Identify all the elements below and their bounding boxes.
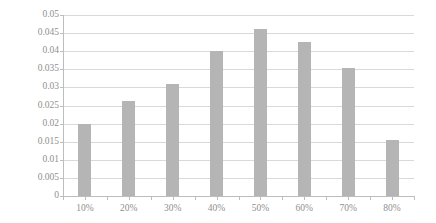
bars-group — [63, 15, 414, 196]
x-axis-tick-label: 70% — [325, 203, 371, 214]
bar — [122, 101, 135, 196]
x-axis-tick-mark — [195, 196, 196, 200]
bar — [166, 84, 179, 196]
x-axis-tick-label: 60% — [281, 203, 327, 214]
x-axis-tick-mark — [348, 196, 349, 200]
x-axis-tick-mark — [129, 196, 130, 200]
x-axis-tick-mark — [173, 196, 174, 200]
y-axis-tick-label: 0 — [3, 191, 59, 201]
bar — [254, 29, 267, 196]
y-axis-labels: 0.050.0450.040.0350.030.0250.020.0150.01… — [0, 0, 59, 223]
x-axis-tick-mark — [326, 196, 327, 200]
x-axis-tick-label: 50% — [237, 203, 283, 214]
y-axis-tick-label: 0.02 — [3, 119, 59, 129]
x-axis-tick-label: 30% — [150, 203, 196, 214]
bar — [210, 51, 223, 196]
x-axis-tick-mark — [151, 196, 152, 200]
y-axis-tick-label: 0.04 — [3, 46, 59, 56]
x-axis-tick-mark — [392, 196, 393, 200]
x-axis-tick-label: 10% — [62, 203, 108, 214]
y-axis-tick-label: 0.045 — [3, 28, 59, 38]
y-axis-tick-label: 0.025 — [3, 101, 59, 111]
bar — [342, 68, 355, 197]
bar-chart: 0.050.0450.040.0350.030.0250.020.0150.01… — [0, 0, 436, 223]
x-axis-tick-mark — [63, 196, 64, 200]
x-axis-tick-label: 20% — [106, 203, 152, 214]
x-axis-tick-label: 80% — [369, 203, 415, 214]
bar — [386, 140, 399, 196]
x-axis-tick-mark — [260, 196, 261, 200]
y-axis-tick-label: 0.015 — [3, 137, 59, 147]
x-axis-tick-label: 40% — [194, 203, 240, 214]
bar — [298, 42, 311, 196]
x-axis-tick-mark — [239, 196, 240, 200]
x-axis-tick-mark — [370, 196, 371, 200]
y-axis-tick-label: 0.01 — [3, 155, 59, 165]
x-axis-tick-mark — [85, 196, 86, 200]
x-axis-tick-mark — [107, 196, 108, 200]
y-axis-tick-label: 0.005 — [3, 173, 59, 183]
y-axis-tick-label: 0.035 — [3, 64, 59, 74]
x-axis-tick-mark — [414, 196, 415, 200]
x-axis-tick-mark — [217, 196, 218, 200]
x-axis-tick-mark — [304, 196, 305, 200]
y-axis-tick-label: 0.05 — [3, 10, 59, 20]
y-axis-tick-label: 0.03 — [3, 82, 59, 92]
bar — [78, 124, 91, 196]
x-axis-tick-mark — [282, 196, 283, 200]
